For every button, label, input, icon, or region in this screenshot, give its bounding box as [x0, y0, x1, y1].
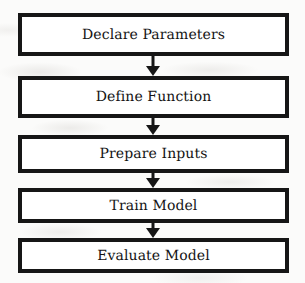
- flowchart-node-train-model[interactable]: Train Model: [18, 188, 289, 223]
- flowchart-node-label: Declare Parameters: [82, 28, 225, 42]
- flowchart-node-define-function[interactable]: Define Function: [18, 76, 289, 118]
- flowchart-node-declare-parameters[interactable]: Declare Parameters: [18, 13, 289, 56]
- flowchart-node-label: Train Model: [110, 199, 198, 213]
- flowchart-node-prepare-inputs[interactable]: Prepare Inputs: [18, 135, 289, 173]
- flowchart-node-label: Evaluate Model: [97, 249, 210, 263]
- flowchart-node-evaluate-model[interactable]: Evaluate Model: [18, 238, 289, 273]
- flowchart-arrow-2: [0, 118, 305, 135]
- flowchart-diagram: Declare Parameters Define Function Prepa…: [0, 0, 305, 283]
- flowchart-node-label: Prepare Inputs: [100, 147, 208, 161]
- flowchart-arrow-4: [0, 223, 305, 238]
- flowchart-arrow-3: [0, 173, 305, 188]
- flowchart-node-label: Define Function: [96, 90, 212, 104]
- flowchart-arrow-1: [0, 56, 305, 76]
